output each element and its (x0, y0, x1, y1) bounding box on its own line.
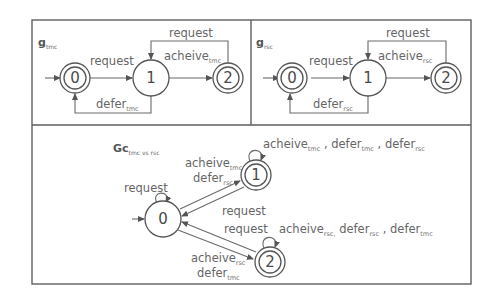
state-2: 2 (431, 63, 461, 93)
svg-text:2: 2 (441, 69, 451, 87)
label-0-1-defer: deferrsc (193, 171, 233, 187)
label-0-1-acheive: acheivetmc (185, 156, 243, 172)
svg-text:0: 0 (70, 69, 80, 87)
label-request: request (90, 54, 134, 68)
svg-text:1: 1 (251, 166, 261, 184)
state-1: 1 (241, 160, 271, 190)
state-2: 2 (213, 63, 243, 93)
label-request-back: request (169, 26, 213, 40)
label-1-0: request (222, 204, 266, 218)
panel-combined: Gctmc vs rsc 0 1 2 reques (113, 137, 433, 282)
panel-title: Gctmc vs rsc (113, 142, 159, 156)
state-0: 0 (60, 63, 90, 93)
panel-tmc: gtmc 0 1 2 request acheivetmc request de… (38, 26, 243, 113)
label-request-back: request (386, 26, 430, 40)
state-0: 0 (277, 63, 307, 93)
svg-text:1: 1 (146, 69, 156, 87)
label-2-0: request (224, 222, 268, 236)
panel-title: gtmc (38, 36, 57, 50)
svg-text:0: 0 (158, 210, 168, 228)
label-self-1: acheivetmc , defertmc , deferrsc (263, 137, 425, 153)
svg-text:2: 2 (223, 69, 233, 87)
state-1: 1 (133, 60, 169, 96)
svg-text:1: 1 (363, 69, 373, 87)
label-request: request (309, 54, 353, 68)
label-acheive: acheiversc (378, 49, 433, 65)
panel-title: grsc (256, 36, 273, 50)
label-acheive: acheivetmc (164, 49, 222, 65)
state-2: 2 (255, 247, 285, 277)
label-0-2-defer: defertmc (197, 266, 240, 282)
state-1: 1 (350, 60, 386, 96)
svg-text:2: 2 (265, 253, 275, 271)
label-defer: deferrsc (313, 97, 353, 113)
label-defer: defertmc (96, 97, 139, 113)
panel-rsc: grsc 0 1 2 request acheiversc request de… (256, 26, 461, 113)
automata-diagram: gtmc 0 1 2 request acheivetmc request de… (0, 0, 496, 299)
svg-text:0: 0 (287, 69, 297, 87)
label-self-2: acheiversc, deferrsc , defertmc (279, 222, 433, 238)
state-0: 0 (145, 201, 181, 237)
label-self-0: request (124, 181, 168, 195)
